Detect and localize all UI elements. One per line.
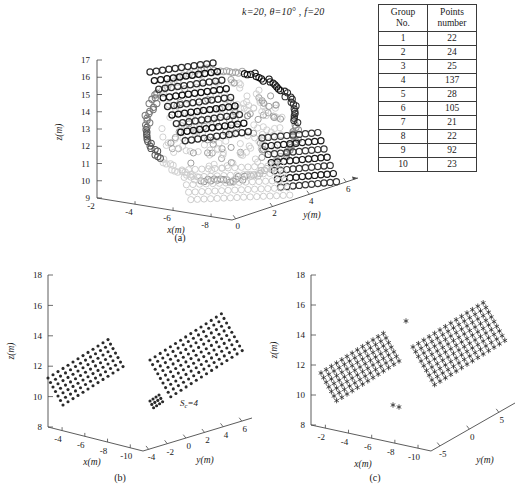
panel-c-plot: 81012141618z(m)-2-4-6-8-10x(m)-505y(m) <box>263 255 526 470</box>
panel-b-points: Sc=4 <box>46 312 243 409</box>
cell-group: 4 <box>379 73 428 87</box>
svg-text:z(m): z(m) <box>54 124 65 142</box>
cell-group: 8 <box>379 129 428 143</box>
cell-group: 1 <box>379 31 428 45</box>
svg-text:4: 4 <box>224 430 229 440</box>
svg-text:10: 10 <box>33 392 43 402</box>
svg-text:-6: -6 <box>163 213 171 223</box>
svg-text:z(m): z(m) <box>6 343 17 361</box>
svg-text:-8: -8 <box>201 220 209 230</box>
panel-b-annotation: Sc=4 <box>180 398 198 409</box>
cell-group: 3 <box>379 59 428 73</box>
svg-text:13: 13 <box>81 124 91 134</box>
cell-group: 9 <box>379 143 428 157</box>
svg-text:-8: -8 <box>100 446 108 456</box>
svg-text:5: 5 <box>500 415 505 425</box>
svg-text:x(m): x(m) <box>353 459 371 470</box>
cell-points: 22 <box>428 129 477 143</box>
svg-text:16: 16 <box>81 72 91 82</box>
svg-text:4: 4 <box>309 196 314 206</box>
svg-text:14: 14 <box>81 107 91 117</box>
svg-text:-4: -4 <box>54 434 62 444</box>
svg-text:-2: -2 <box>166 447 174 457</box>
svg-text:-6: -6 <box>364 442 372 452</box>
table-header-group: Group No. <box>379 5 428 32</box>
points-number-table: Group No. Points number 122 224 325 4137… <box>378 4 477 172</box>
panel-a-tick-labels: 91011121314151617z(m)-2-4-6-8x(m)0246y(m… <box>54 55 351 236</box>
svg-text:8: 8 <box>301 420 306 430</box>
panel-b-plot: Sc=4 81012141618z(m)-4-6-8-10x(m)-4-2024… <box>0 255 263 470</box>
cell-points: 24 <box>428 45 477 59</box>
cell-points: 137 <box>428 73 477 87</box>
svg-text:y(m): y(m) <box>475 455 493 466</box>
svg-text:-8: -8 <box>387 447 395 457</box>
table-header-row: Group No. Points number <box>379 5 477 32</box>
caption-b: (b) <box>100 472 140 483</box>
panel-a: 91011121314151617z(m)-2-4-6-8x(m)0246y(m… <box>0 20 375 235</box>
svg-text:x(m): x(m) <box>82 457 100 468</box>
table-row: 822 <box>379 129 477 143</box>
table-row: 224 <box>379 45 477 59</box>
table-row: 325 <box>379 59 477 73</box>
svg-text:-5: -5 <box>439 449 447 459</box>
table-row: 1023 <box>379 157 477 171</box>
title-param-f: f=20 <box>304 6 324 17</box>
svg-text:6: 6 <box>346 184 351 194</box>
svg-text:0: 0 <box>235 221 240 231</box>
caption-c: (c) <box>355 472 395 483</box>
cell-group: 5 <box>379 87 428 101</box>
table-row: 6105 <box>379 101 477 115</box>
svg-text:12: 12 <box>33 361 42 371</box>
cell-group: 10 <box>379 157 428 171</box>
panel-a-plot: 91011121314151617z(m)-2-4-6-8x(m)0246y(m… <box>0 20 375 235</box>
table-row: 528 <box>379 87 477 101</box>
svg-text:-2: -2 <box>87 201 95 211</box>
svg-text:y(m): y(m) <box>195 455 213 466</box>
cell-points: 92 <box>428 143 477 157</box>
title-param-k: k=20 <box>242 6 264 17</box>
cell-points: 21 <box>428 115 477 129</box>
svg-text:y(m): y(m) <box>302 210 320 221</box>
svg-text:17: 17 <box>81 55 91 65</box>
cell-points: 28 <box>428 87 477 101</box>
svg-text:-4: -4 <box>341 437 349 447</box>
cell-group: 6 <box>379 101 428 115</box>
figure-root: k=20, θ=10° , f=20 Group No. Points numb… <box>0 0 526 494</box>
svg-text:-4: -4 <box>125 207 133 217</box>
svg-text:16: 16 <box>296 300 306 310</box>
svg-text:12: 12 <box>81 141 90 151</box>
svg-text:8: 8 <box>38 422 43 432</box>
svg-text:14: 14 <box>296 330 306 340</box>
svg-text:14: 14 <box>33 331 43 341</box>
svg-text:6: 6 <box>243 424 248 434</box>
svg-text:2: 2 <box>272 208 277 218</box>
cell-group: 2 <box>379 45 428 59</box>
panel-c-axes <box>311 275 515 451</box>
table-header-points: Points number <box>428 5 477 32</box>
svg-text:10: 10 <box>81 176 91 186</box>
cell-points: 105 <box>428 101 477 115</box>
caption-a: (a) <box>150 232 210 243</box>
cell-group: 7 <box>379 115 428 129</box>
panel-c-points <box>319 300 507 410</box>
svg-text:10: 10 <box>296 390 306 400</box>
svg-text:-4: -4 <box>148 452 156 462</box>
svg-text:-10: -10 <box>408 452 420 462</box>
svg-text:11: 11 <box>81 159 90 169</box>
svg-text:0: 0 <box>470 432 475 442</box>
svg-text:-6: -6 <box>77 440 85 450</box>
title-param-theta: θ=10° <box>269 6 296 17</box>
cell-points: 23 <box>428 157 477 171</box>
svg-text:0: 0 <box>187 441 192 451</box>
figure-title: k=20, θ=10° , f=20 <box>242 6 325 17</box>
svg-text:-10: -10 <box>120 451 132 461</box>
panel-c-tick-labels: 81012141618z(m)-2-4-6-8-10x(m)-505y(m) <box>269 270 505 470</box>
svg-text:12: 12 <box>296 360 305 370</box>
cell-points: 22 <box>428 31 477 45</box>
svg-text:-2: -2 <box>318 432 326 442</box>
svg-text:z(m): z(m) <box>269 342 280 360</box>
cell-points: 25 <box>428 59 477 73</box>
table-row: 4137 <box>379 73 477 87</box>
svg-text:2: 2 <box>205 435 210 445</box>
table-row: 122 <box>379 31 477 45</box>
